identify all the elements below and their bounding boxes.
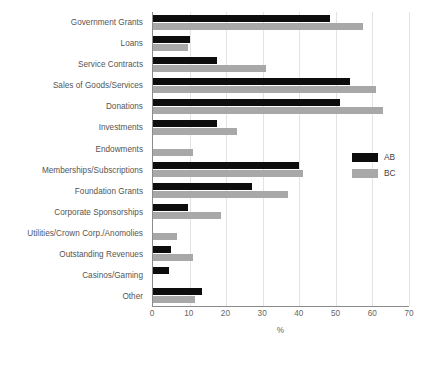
- category-label: Outstanding Revenues: [0, 244, 148, 265]
- bar-ab: [153, 267, 169, 274]
- category-label: Service Contracts: [0, 54, 148, 75]
- bar-bc: [153, 107, 383, 114]
- category-label: Corporate Sponsorships: [0, 202, 148, 223]
- legend-label: BC: [384, 168, 396, 178]
- x-tick-label: 50: [331, 309, 340, 318]
- bar-bc: [153, 170, 303, 177]
- bar-ab: [153, 183, 252, 190]
- category-axis-labels: Government GrantsLoansService ContractsS…: [0, 12, 148, 307]
- category-label: Endowments: [0, 138, 148, 159]
- bar-bc: [153, 191, 288, 198]
- bar-ab: [153, 36, 190, 43]
- bar-group: [153, 54, 409, 75]
- category-label: Investments: [0, 117, 148, 138]
- legend-item-bc: BC: [352, 168, 396, 178]
- bar-group: [153, 96, 409, 117]
- bar-group: [153, 33, 409, 54]
- bar-group: [153, 264, 409, 285]
- category-label: Sales of Goods/Services: [0, 75, 148, 96]
- bar-ab: [153, 120, 217, 127]
- bar-ab: [153, 15, 330, 22]
- bar-bc: [153, 212, 221, 219]
- legend-label: AB: [384, 152, 395, 162]
- category-label: Other: [0, 286, 148, 307]
- x-tick-label: 70: [404, 309, 413, 318]
- bar-group: [153, 243, 409, 264]
- legend: ABBC: [352, 152, 396, 178]
- x-tick-label: 10: [184, 309, 193, 318]
- bar-bc: [153, 233, 177, 240]
- bar-bc: [153, 254, 193, 261]
- bar-bc: [153, 23, 363, 30]
- category-label: Donations: [0, 96, 148, 117]
- bar-ab: [153, 204, 188, 211]
- bar-bc: [153, 128, 237, 135]
- bar-group: [153, 222, 409, 243]
- bar-ab: [153, 99, 340, 106]
- bar-bc: [153, 44, 188, 51]
- x-tick-label: 60: [368, 309, 377, 318]
- x-axis-title: %: [152, 326, 409, 335]
- bar-ab: [153, 57, 217, 64]
- category-label: Loans: [0, 33, 148, 54]
- category-label: Government Grants: [0, 12, 148, 33]
- x-tick-label: 30: [258, 309, 267, 318]
- bar-group: [153, 117, 409, 138]
- bar-group: [153, 285, 409, 306]
- bar-bc: [153, 65, 266, 72]
- bar-group: [153, 75, 409, 96]
- bar-bc: [153, 296, 195, 303]
- legend-item-ab: AB: [352, 152, 396, 162]
- gridline: [409, 12, 410, 306]
- bar-ab: [153, 288, 202, 295]
- legend-swatch-ab: [352, 153, 378, 162]
- bar-group: [153, 12, 409, 33]
- category-label: Foundation Grants: [0, 181, 148, 202]
- bar-chart: Government GrantsLoansService ContractsS…: [0, 0, 430, 370]
- category-label: Memberships/Subscriptions: [0, 160, 148, 181]
- bar-ab: [153, 246, 171, 253]
- x-tick-label: 40: [294, 309, 303, 318]
- bar-ab: [153, 162, 299, 169]
- x-tick-label: 20: [221, 309, 230, 318]
- bar-group: [153, 201, 409, 222]
- category-label: Utilities/Crown Corp./Anomolies: [0, 223, 148, 244]
- legend-swatch-bc: [352, 169, 378, 178]
- bar-bc: [153, 86, 376, 93]
- x-tick-label: 0: [150, 309, 155, 318]
- x-axis-ticks: 010203040506070: [152, 309, 409, 323]
- bar-ab: [153, 78, 350, 85]
- category-label: Casinos/Gaming: [0, 265, 148, 286]
- bar-group: [153, 180, 409, 201]
- bar-bc: [153, 149, 193, 156]
